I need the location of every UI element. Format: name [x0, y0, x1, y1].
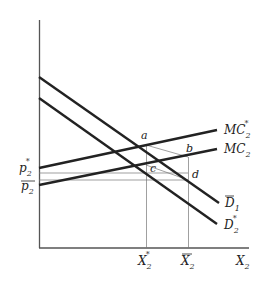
mc2star-label: MC2*	[223, 119, 251, 140]
x-axis-label: X2	[235, 254, 250, 271]
mc2-label: MC2	[223, 142, 251, 159]
point-a: a	[141, 129, 148, 142]
supply-demand-diagram: MC2* MC2 D1 D2* p2* p2 X2* X2 X2 a b c d	[0, 0, 262, 290]
d2star-label: D2*	[223, 214, 239, 235]
point-c: c	[150, 162, 156, 175]
x2bar-label: X2	[180, 254, 195, 271]
d2star-curve	[39, 98, 217, 224]
d1bar-label: D1	[224, 196, 240, 213]
point-b: b	[186, 142, 193, 155]
point-d: d	[192, 168, 199, 181]
p2bar-label: p2	[21, 179, 34, 196]
p2star-label: p2*	[19, 157, 32, 178]
x2star-label: X2*	[137, 250, 152, 271]
d1bar-curve	[39, 77, 219, 203]
